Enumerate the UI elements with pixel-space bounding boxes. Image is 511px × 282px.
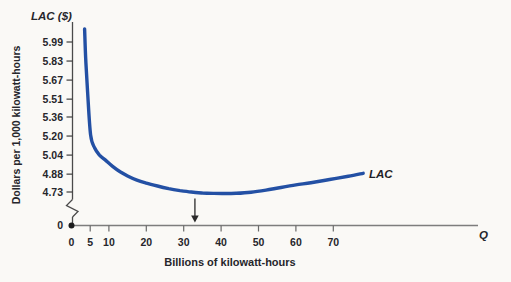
y-tick-label: 5.67 xyxy=(23,74,63,86)
y-tick-label: 4.73 xyxy=(23,186,63,198)
x-tick-label: 40 xyxy=(209,236,233,248)
x-tick-label: 20 xyxy=(134,236,158,248)
y-tick-label: 5.04 xyxy=(23,149,63,161)
x-axis-label: Billions of kilowatt-hours xyxy=(115,256,345,268)
x-tick-label: 50 xyxy=(247,236,271,248)
lac-chart-figure: LAC ($) Dollars per 1,000 kilowatt-hours… xyxy=(0,0,511,282)
y-tick-label: 5.36 xyxy=(23,111,63,123)
x-tick-label: 30 xyxy=(172,236,196,248)
arrow-head xyxy=(191,216,199,223)
x-axis-symbol: Q xyxy=(479,229,488,241)
lac-curve xyxy=(85,29,364,194)
origin-dot xyxy=(69,223,75,229)
x-tick-label: 10 xyxy=(97,236,121,248)
y-tick-label: 5.83 xyxy=(23,55,63,67)
x-tick-label: 70 xyxy=(321,236,345,248)
y-tick-label: 5.99 xyxy=(23,36,63,48)
tick-marks xyxy=(67,42,334,232)
y-tick-label: 4.88 xyxy=(23,168,63,180)
x-tick-label: 60 xyxy=(284,236,308,248)
axes xyxy=(67,22,479,229)
chart-title: LAC ($) xyxy=(31,10,72,22)
y-axis-break xyxy=(67,200,79,218)
y-origin-label: 0 xyxy=(30,219,63,231)
y-tick-label: 5.51 xyxy=(23,93,63,105)
y-tick-label: 5.20 xyxy=(23,130,63,142)
min-point-arrow xyxy=(191,199,199,223)
y-axis-label: Dollars per 1,000 kilowatt-hours xyxy=(10,46,22,205)
curve-label-lac: LAC xyxy=(369,168,393,180)
lac-curve-path xyxy=(85,29,364,194)
